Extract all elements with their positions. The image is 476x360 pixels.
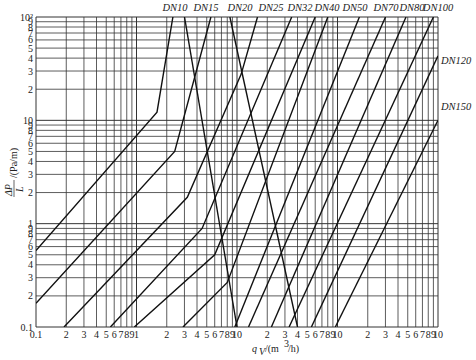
y-tick-label: 10 [23,115,33,126]
x-tick-label: 2 [365,329,370,340]
y-tick-label: 4 [28,156,33,167]
x-tick-label: 5 [405,329,410,340]
x-tick-label: 7 [420,329,425,340]
series-label-dn32: DN32 [286,2,313,13]
series-label-dn10: DN10 [161,2,188,13]
series-labels: DN10DN15DN20DN25DN32DN40DN50DN70DN80DN10… [161,2,472,112]
series-line-transition-upper [185,17,238,327]
x-tick-label: 10 [333,329,343,340]
x-axis-title-end: /h) [288,343,299,355]
y-tick-label: 2 [28,187,33,198]
series-line-dn25 [110,17,291,327]
series-line-transition-lower [230,17,298,327]
series-line-dn10 [36,17,173,251]
series-label-dn80: DN80 [398,2,425,13]
x-tick-label: 6 [413,329,418,340]
y-tick-label: 2 [28,290,33,301]
y-axis-title-den: L [14,186,25,193]
x-tick-label: 4 [94,329,99,340]
series-line-dn40 [183,17,328,327]
x-tick-label: 7 [219,329,224,340]
y-tick-label: 1 [28,218,33,229]
series-label-dn15: DN15 [192,2,218,13]
x-axis-ticks: 0.12345678912345678910234567891023456789… [30,329,443,340]
y-axis-ticks: 0.123456789123456789102345678910² [20,12,33,333]
x-tick-label: 2 [164,329,169,340]
pressure-drop-chart: 0.12345678912345678910234567891023456789… [0,0,476,360]
x-tick-label: 1 [134,329,139,340]
series-label-dn20: DN20 [226,2,253,13]
series-label-dn40: DN40 [313,2,340,13]
x-tick-label: 10 [232,329,242,340]
x-tick-label: 3 [182,329,187,340]
y-tick-label: 4 [28,53,33,64]
y-tick-label: 3 [28,169,33,180]
x-tick-label: 4 [195,329,200,340]
x-axis-title: q V /(m 3 /h) [252,338,299,357]
y-axis-title: ΔP L /(Pa/m) [3,148,25,197]
series-label-dn120: DN120 [440,55,472,66]
y-axis-title-unit: /(Pa/m) [8,148,20,178]
x-axis-title-q: q [252,343,257,354]
x-tick-label: 2 [265,329,270,340]
y-tick-label: 3 [28,66,33,77]
x-tick-label: 2 [64,329,69,340]
series-label-dn25: DN25 [257,2,283,13]
x-tick-label: 7 [118,329,123,340]
x-tick-label: 6 [212,329,217,340]
series-line-dn50 [235,17,360,327]
series-label-dn70: DN70 [372,2,399,13]
x-tick-label: 6 [313,329,318,340]
series-label-dn50: DN50 [341,2,368,13]
y-tick-label: 10² [20,12,33,23]
series-label-dn150: DN150 [440,101,472,112]
x-tick-label: 5 [104,329,109,340]
y-tick-label: 2 [28,84,33,95]
chart-grid [36,17,438,327]
x-tick-label: 10 [433,329,443,340]
y-tick-label: 4 [28,259,33,270]
x-tick-label: 6 [112,329,117,340]
y-axis-title-num: ΔP [3,184,14,197]
x-tick-label: 7 [319,329,324,340]
y-tick-label: 3 [28,272,33,283]
x-axis-title-unit: /(m [265,343,279,355]
x-tick-label: 4 [396,329,401,340]
x-tick-label: 5 [204,329,209,340]
x-tick-label: 5 [305,329,310,340]
y-tick-label: 0.1 [21,322,34,333]
series-label-dn100: DN100 [422,2,454,13]
x-tick-label: 4 [295,329,300,340]
x-tick-label: 3 [383,329,388,340]
x-tick-label: 3 [81,329,86,340]
